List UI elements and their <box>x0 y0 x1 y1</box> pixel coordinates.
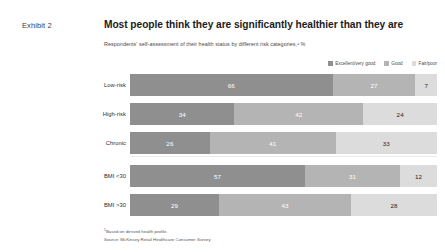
footnote-source: Source: McKinsey Retail Healthcare Consu… <box>104 236 211 244</box>
chart-subtitle: Respondents' self-assessment of their he… <box>104 41 305 47</box>
footnote-note: 1Based on derived health profile. <box>104 228 211 236</box>
bar-segment-excellent-very-good: 57 <box>130 165 305 187</box>
stacked-bar: 26 41 33 <box>130 132 437 154</box>
stacked-bar: 57 31 12 <box>130 165 437 187</box>
page-title: Most people think they are significantly… <box>104 19 403 30</box>
row-label: Low-risk <box>92 82 126 88</box>
bar-segment-fair-poor: 33 <box>336 132 437 154</box>
legend-swatch-icon <box>384 61 389 66</box>
stacked-bar-chart: Low-risk 66 27 7 High-risk 34 42 24 Chro… <box>0 74 445 223</box>
legend-item-label: Excellent/very good <box>335 61 375 66</box>
footnote-text: Based on derived health profile. <box>106 230 168 235</box>
row-label: BMI <30 <box>92 173 126 179</box>
chart-row-high-risk: High-risk 34 42 24 <box>0 103 445 125</box>
bar-segment-excellent-very-good: 34 <box>130 103 234 125</box>
bar-segment-good: 42 <box>234 103 363 125</box>
bar-segment-excellent-very-good: 29 <box>130 194 219 216</box>
footnotes: 1Based on derived health profile. Source… <box>104 228 211 244</box>
bar-segment-fair-poor: 7 <box>415 74 436 96</box>
chart-row-bmi-over-30: BMI >30 29 43 28 <box>0 194 445 216</box>
exhibit-label: Exhibit 2 <box>22 21 52 30</box>
bar-segment-good: 41 <box>210 132 336 154</box>
chart-legend: Excellent/very good Good Fair/poor <box>328 61 437 66</box>
row-label: Chronic <box>92 140 126 146</box>
legend-item-good: Good <box>384 61 402 66</box>
legend-item-label: Good <box>391 61 402 66</box>
group-divider <box>130 156 437 157</box>
legend-swatch-icon <box>328 61 333 66</box>
chart-row-low-risk: Low-risk 66 27 7 <box>0 74 445 96</box>
bar-segment-excellent-very-good: 66 <box>130 74 333 96</box>
bar-segment-fair-poor: 24 <box>363 103 437 125</box>
chart-row-bmi-under-30: BMI <30 57 31 12 <box>0 165 445 187</box>
bar-segment-fair-poor: 28 <box>351 194 437 216</box>
row-label: BMI >30 <box>92 202 126 208</box>
bar-segment-excellent-very-good: 26 <box>130 132 210 154</box>
legend-item-label: Fair/poor <box>419 61 437 66</box>
stacked-bar: 34 42 24 <box>130 103 437 125</box>
chart-row-chronic: Chronic 26 41 33 <box>0 132 445 154</box>
legend-item-fair-poor: Fair/poor <box>412 61 437 66</box>
bar-segment-good: 27 <box>333 74 416 96</box>
legend-item-excellent-very-good: Excellent/very good <box>328 61 375 66</box>
stacked-bar: 29 43 28 <box>130 194 437 216</box>
stacked-bar: 66 27 7 <box>130 74 437 96</box>
row-label: High-risk <box>92 111 126 117</box>
legend-swatch-icon <box>412 61 417 66</box>
bar-segment-good: 31 <box>305 165 400 187</box>
bar-segment-good: 43 <box>219 194 351 216</box>
bar-segment-fair-poor: 12 <box>400 165 437 187</box>
